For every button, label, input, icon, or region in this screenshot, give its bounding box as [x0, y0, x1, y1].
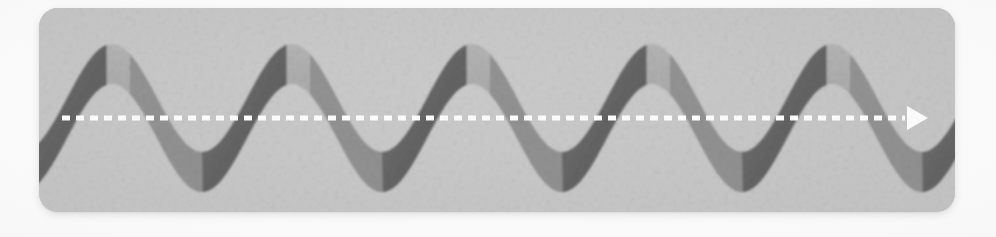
dashed-axis-svg	[39, 8, 955, 212]
illustration-card	[39, 8, 955, 212]
illustration-stage	[0, 0, 996, 237]
arrow-marker	[907, 106, 928, 130]
dashed-axis-layer	[39, 8, 955, 212]
